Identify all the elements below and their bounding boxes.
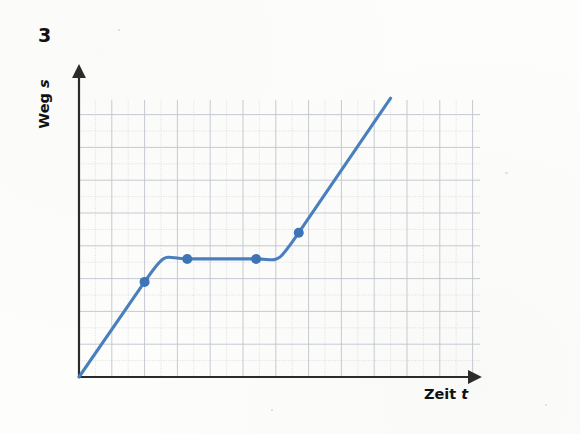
weg-zeit-diagram-figure: 3 Weg s Zeit t xyxy=(0,0,580,434)
grid-major-lines xyxy=(79,100,480,377)
paper-speck xyxy=(271,409,273,411)
data-point-marker xyxy=(182,254,192,264)
paper-speck xyxy=(118,29,120,31)
plot-area xyxy=(0,0,580,434)
data-point-marker xyxy=(294,228,304,238)
paper-speck xyxy=(505,172,508,174)
data-point-marker xyxy=(251,254,261,264)
data-point-marker xyxy=(140,277,150,287)
weg-zeit-curve xyxy=(79,98,391,377)
paper-speck xyxy=(545,404,547,406)
grid-minor-lines xyxy=(79,100,480,377)
